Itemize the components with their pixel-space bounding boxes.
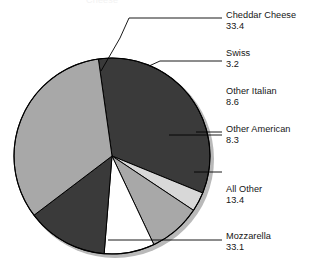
callout-value-other-italian: 8.6 [226, 97, 277, 108]
callout-name-mozzarella: Mozzarella [226, 231, 271, 242]
callout-label-all-other: All Other 13.4 [226, 184, 262, 206]
callout-label-other-american: Other American 8.3 [226, 124, 291, 146]
callout-name-other-italian: Other Italian [226, 86, 277, 97]
pie-slice-group [14, 58, 210, 254]
callout-value-all-other: 13.4 [226, 195, 262, 206]
callout-label-mozzarella: Mozzarella 33.1 [226, 231, 271, 253]
callout-value-swiss: 3.2 [226, 59, 250, 70]
callout-value-mozzarella: 33.1 [226, 242, 271, 253]
leader-line-swiss [149, 61, 222, 66]
callout-value-other-american: 8.3 [226, 135, 291, 146]
callout-label-swiss: Swiss 3.2 [226, 48, 250, 70]
callout-label-cheddar-cheese: Cheddar Cheese 33.4 [226, 10, 296, 32]
callout-label-other-italian: Other Italian 8.6 [226, 86, 277, 108]
callout-name-swiss: Swiss [226, 48, 250, 59]
callout-value-cheddar-cheese: 33.4 [226, 21, 296, 32]
pie-chart-figure: Cheese Cheddar Cheese 33.4 Swiss 3.2 Oth… [0, 0, 320, 268]
callout-name-other-american: Other American [226, 124, 291, 135]
callout-name-cheddar-cheese: Cheddar Cheese [226, 10, 296, 21]
callout-name-all-other: All Other [226, 184, 262, 195]
